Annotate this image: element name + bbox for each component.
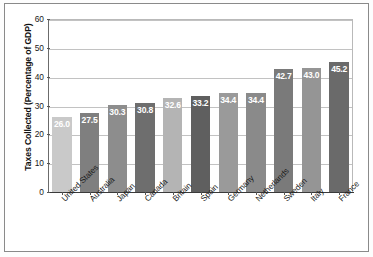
bar-value-label: 26.0 [52,119,71,129]
bar-slot: 32.6 [163,19,182,192]
bar-value-label: 32.6 [163,100,182,110]
y-axis-tick-label: 0 [24,187,44,197]
y-axis-tick-label: 30 [24,101,44,111]
y-axis-tick-mark [47,48,50,49]
y-axis-tick-mark [47,106,50,107]
bar-value-label: 34.4 [219,95,238,105]
bar[interactable]: 43.0 [302,68,321,192]
y-axis-tick-label: 10 [24,158,44,168]
bar-value-label: 27.5 [80,115,99,125]
bar[interactable]: 30.8 [135,103,154,192]
y-axis-tick-label: 40 [24,72,44,82]
bar-slot: 34.4 [219,19,238,192]
bar-slot: 45.2 [329,19,348,192]
bar-value-label: 42.7 [274,71,293,81]
bar[interactable]: 45.2 [329,62,348,192]
y-axis-tick-mark [47,192,50,193]
y-axis-tick-label: 60 [24,14,44,24]
y-axis-tick-label: 20 [24,129,44,139]
bar-slot: 43.0 [302,19,321,192]
y-axis-tick-mark [47,77,50,78]
y-axis-tick-mark [47,19,50,20]
y-axis-tick-mark [47,163,50,164]
bar[interactable]: 26.0 [52,117,71,192]
bar-slot: 34.4 [246,19,265,192]
y-axis-tick-label: 50 [24,43,44,53]
bar-slot: 30.8 [135,19,154,192]
bar-value-label: 33.2 [191,98,210,108]
bar-value-label: 45.2 [329,64,348,74]
bar-slot: 33.2 [191,19,210,192]
bar-value-label: 43.0 [302,70,321,80]
bar-value-label: 34.4 [246,95,265,105]
chart-figure: Taxes Collected (Percentage of GDP) 0102… [0,0,373,257]
y-axis-tick-mark [47,134,50,135]
y-axis-tick-labels: 0102030405060 [22,19,44,192]
bar[interactable]: 34.4 [219,93,238,192]
bar-value-label: 30.3 [108,107,127,117]
bar-value-label: 30.8 [135,105,154,115]
bar[interactable]: 33.2 [191,96,210,192]
bar[interactable]: 32.6 [163,98,182,192]
bar-slot: 26.0 [52,19,71,192]
bar-slot: 30.3 [108,19,127,192]
